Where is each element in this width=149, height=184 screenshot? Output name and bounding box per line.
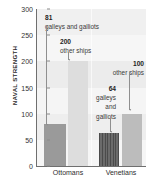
- y-tick-mark: [47, 166, 50, 167]
- leader-arrow-ottomans-other-ships: [68, 59, 70, 61]
- annotation-venetians-other-ships: 100 other ships: [78, 59, 144, 77]
- leader-arrow-ottomans-galleys: [46, 124, 48, 126]
- annotation-text: galleys and galliots: [45, 22, 99, 31]
- annotation-text: other ships: [78, 68, 144, 77]
- annotation-ottomans-other-ships: 200 other ships: [60, 37, 91, 55]
- leader-arrow-venetians-other-ships: [129, 109, 131, 111]
- bar-hatch-pattern: [99, 133, 119, 167]
- x-axis-label-venetians: Venetians: [95, 169, 147, 176]
- y-axis-line: [36, 9, 37, 167]
- bar-venetians-galleys: [99, 133, 119, 167]
- naval-strength-chart: NAVAL STRENGTH 300 250 200 150 100 50 0 …: [0, 0, 149, 184]
- y-tick-mark: [47, 139, 50, 140]
- leader-line-venetians-other-ships: [129, 72, 130, 110]
- y-tick-mark: [47, 35, 50, 36]
- bar-venetians-other-ships: [122, 114, 142, 166]
- annotation-venetians-galleys: 64 galleys and galliots: [58, 84, 116, 121]
- annotation-text: galliots: [58, 112, 116, 121]
- annotation-text: galleys: [58, 93, 116, 102]
- leader-arrow-venetians-galleys: [110, 131, 112, 133]
- x-axis-label-ottomans: Ottomans: [43, 169, 93, 176]
- y-tick-label: 50: [13, 136, 33, 143]
- annotation-text: other ships: [60, 46, 91, 55]
- y-tick-label: 300: [13, 6, 33, 13]
- annotation-value: 64: [58, 84, 116, 93]
- annotation-text: and: [58, 102, 116, 111]
- y-tick-mark: [47, 87, 50, 88]
- y-tick-mark: [47, 61, 50, 62]
- leader-line-ottomans-galleys: [46, 26, 47, 125]
- y-tick-label: 0: [13, 163, 33, 170]
- y-axis-tick-labels: 300 250 200 150 100 50 0: [13, 0, 33, 184]
- bar-ottomans-galleys: [44, 124, 66, 166]
- y-tick-label: 200: [13, 58, 33, 65]
- annotation-value: 200: [60, 37, 91, 46]
- annotation-value: 81: [45, 13, 99, 22]
- y-tick-label: 250: [13, 32, 33, 39]
- annotation-ottomans-galleys: 81 galleys and galliots: [45, 13, 99, 31]
- leader-line-venetians-galleys: [110, 118, 111, 132]
- y-tick-label: 150: [13, 84, 33, 91]
- x-axis-line: [36, 166, 146, 167]
- y-tick-mark: [47, 9, 50, 10]
- annotation-value: 100: [78, 59, 144, 68]
- y-tick-label: 100: [13, 110, 33, 117]
- y-tick-mark: [47, 113, 50, 114]
